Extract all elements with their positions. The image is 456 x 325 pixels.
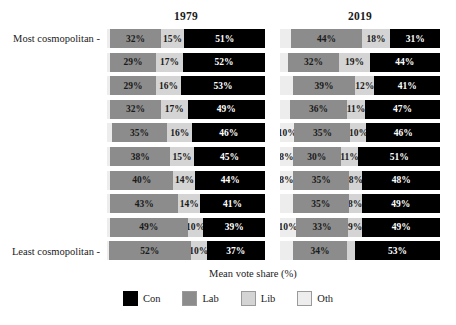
bar-segment-lib[interactable]: 14% <box>178 194 200 213</box>
bar-segment-lib[interactable]: 16% <box>156 76 181 95</box>
bar-segment-oth[interactable] <box>280 53 288 72</box>
bar-segment-con[interactable]: 37% <box>207 241 265 260</box>
bar-segment-lab[interactable]: 29% <box>110 53 156 72</box>
bar-segment-oth[interactable]: 10% <box>280 218 296 237</box>
bar-segment-con[interactable]: 44% <box>195 171 265 190</box>
bar-segment-lib[interactable]: 12% <box>355 76 374 95</box>
bar-segment-con[interactable]: 49% <box>188 100 265 119</box>
bar-segment-lab[interactable]: 32% <box>110 100 161 119</box>
stacked-bar-y2019[interactable]: 34%53% <box>280 241 440 260</box>
bar-segment-oth[interactable]: 8% <box>280 171 293 190</box>
bar-segment-lab[interactable]: 39% <box>293 76 355 95</box>
bar-segment-con[interactable]: 52% <box>183 53 265 72</box>
stacked-bar-y1979[interactable]: 29%17%52% <box>107 53 265 72</box>
bar-segment-oth[interactable] <box>280 29 291 48</box>
bar-segment-lab[interactable]: 30% <box>293 147 341 166</box>
stacked-bar-y2019[interactable]: 39%12%41% <box>280 76 440 95</box>
stacked-bar-y2019[interactable]: 44%18%31% <box>280 29 440 48</box>
bar-segment-lib[interactable]: 18% <box>362 29 391 48</box>
bar-segment-con[interactable]: 53% <box>355 241 440 260</box>
bar-segment-oth[interactable] <box>280 100 290 119</box>
bar-segment-lab[interactable]: 32% <box>110 29 161 48</box>
bar-segment-lib[interactable]: 19% <box>339 53 369 72</box>
stacked-bar-y1979[interactable]: 43%14%41% <box>107 194 265 213</box>
bar-segment-con[interactable]: 39% <box>203 218 265 237</box>
bar-segment-con[interactable]: 45% <box>194 147 265 166</box>
bar-segment-oth[interactable] <box>280 76 293 95</box>
bar-segment-lab[interactable]: 34% <box>293 241 347 260</box>
bar-segment-lib[interactable] <box>347 241 355 260</box>
bar-segment-lab[interactable]: 38% <box>110 147 170 166</box>
bar-segment-con[interactable]: 31% <box>390 29 440 48</box>
bar-segment-label: 29% <box>124 57 143 67</box>
stacked-bar-y2019[interactable]: 36%11%47% <box>280 100 440 119</box>
bar-segment-label: 49% <box>217 104 236 114</box>
stacked-bar-y2019[interactable]: 8%35%8%48% <box>280 171 440 190</box>
bar-segment-oth[interactable] <box>280 241 293 260</box>
bar-segment-con[interactable]: 46% <box>366 123 440 142</box>
bar-segment-con[interactable]: 51% <box>358 147 440 166</box>
bar-segment-con[interactable]: 46% <box>192 123 265 142</box>
bar-segment-lab[interactable]: 35% <box>112 123 167 142</box>
legend-item-lib[interactable]: Lib <box>241 291 276 306</box>
stacked-bar-y2019[interactable]: 35%8%49% <box>280 194 440 213</box>
bar-segment-lab[interactable]: 32% <box>288 53 339 72</box>
bar-segment-lib[interactable]: 16% <box>167 123 192 142</box>
bar-segment-label: 44% <box>317 34 336 44</box>
y-axis-label-blank <box>0 98 103 122</box>
stacked-bar-y1979[interactable]: 52%10%37% <box>107 241 265 260</box>
stacked-bar-y2019[interactable]: 10%33%9%49% <box>280 218 440 237</box>
legend-item-lab[interactable]: Lab <box>182 291 218 306</box>
stacked-bar-y1979[interactable]: 35%16%46% <box>107 123 265 142</box>
stacked-bar-y2019[interactable]: 10%35%10%46% <box>280 123 440 142</box>
stacked-bar-y2019[interactable]: 32%19%44% <box>280 53 440 72</box>
stacked-bar-y1979[interactable]: 32%15%51% <box>107 29 265 48</box>
bar-segment-con[interactable]: 51% <box>184 29 265 48</box>
bar-segment-lab[interactable]: 33% <box>296 218 348 237</box>
stacked-bar-y1979[interactable]: 40%14%44% <box>107 171 265 190</box>
bar-segment-lib[interactable]: 17% <box>156 53 183 72</box>
legend-item-con[interactable]: Con <box>123 291 161 306</box>
bar-segment-oth[interactable]: 8% <box>280 147 293 166</box>
stacked-bar-y2019[interactable]: 8%30%11%51% <box>280 147 440 166</box>
bar-segment-oth[interactable] <box>280 194 293 213</box>
bar-segment-lab[interactable]: 35% <box>293 194 349 213</box>
legend-item-oth[interactable]: Oth <box>297 291 333 306</box>
bar-segment-con[interactable]: 48% <box>362 171 440 190</box>
bar-segment-con[interactable]: 49% <box>362 218 440 237</box>
bar-segment-lab[interactable]: 40% <box>110 171 173 190</box>
bar-segment-con[interactable]: 41% <box>200 194 265 213</box>
bar-segment-lib[interactable]: 10% <box>188 218 204 237</box>
bar-segment-lib[interactable]: 11% <box>341 147 359 166</box>
bar-segment-lib[interactable]: 17% <box>161 100 188 119</box>
legend-label: Con <box>143 293 161 304</box>
bar-segment-lab[interactable]: 52% <box>109 241 191 260</box>
stacked-bar-y1979[interactable]: 49%10%39% <box>107 218 265 237</box>
bar-segment-lib[interactable]: 15% <box>161 29 185 48</box>
bar-segment-label: 8% <box>280 152 293 162</box>
bar-segment-con[interactable]: 47% <box>365 100 440 119</box>
bar-segment-lib[interactable]: 15% <box>170 147 194 166</box>
bar-segment-lib[interactable]: 10% <box>350 123 366 142</box>
stacked-bar-y1979[interactable]: 38%15%45% <box>107 147 265 166</box>
bar-segment-lab[interactable]: 35% <box>293 171 350 190</box>
bar-segment-lib[interactable]: 8% <box>349 171 362 190</box>
bar-segment-con[interactable]: 49% <box>362 194 440 213</box>
bar-segment-lib[interactable]: 8% <box>349 194 362 213</box>
bar-segment-lab[interactable]: 43% <box>110 194 178 213</box>
stacked-bar-y1979[interactable]: 32%17%49% <box>107 100 265 119</box>
bar-segment-con[interactable]: 53% <box>181 76 265 95</box>
bar-segment-lab[interactable]: 36% <box>290 100 348 119</box>
bar-segment-lab[interactable]: 29% <box>110 76 156 95</box>
bar-segment-lab[interactable]: 49% <box>110 218 187 237</box>
bar-segment-lib[interactable]: 14% <box>173 171 195 190</box>
bar-segment-lib[interactable]: 11% <box>347 100 365 119</box>
bar-segment-con[interactable]: 44% <box>370 53 440 72</box>
bar-segment-con[interactable]: 41% <box>374 76 440 95</box>
stacked-bar-y1979[interactable]: 29%16%53% <box>107 76 265 95</box>
bar-segment-lab[interactable]: 44% <box>291 29 361 48</box>
bar-segment-lab[interactable]: 35% <box>294 123 350 142</box>
bar-segment-oth[interactable]: 10% <box>280 123 294 142</box>
bar-segment-lib[interactable]: 9% <box>348 218 362 237</box>
bar-segment-lib[interactable]: 10% <box>191 241 207 260</box>
